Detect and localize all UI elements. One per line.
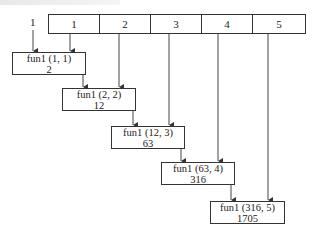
call-box-4: fun1 (63, 4) 316: [161, 162, 235, 185]
array-cell-3: 3: [151, 15, 202, 33]
call-box-5: fun1 (316, 5) 1705: [210, 201, 285, 224]
initial-value-label: 1: [30, 16, 36, 28]
array-cell-4: 4: [202, 15, 253, 33]
array-cell-2: 2: [100, 15, 151, 33]
call-box-3: fun1 (12, 3) 63: [111, 126, 185, 149]
call-result: 316: [162, 175, 234, 185]
call-label: fun1 (63, 4): [162, 164, 234, 174]
call-box-1: fun1 (1, 1) 2: [12, 52, 86, 75]
call-result: 12: [63, 101, 135, 111]
call-label: fun1 (1, 1): [13, 54, 85, 64]
array-header: 1 2 3 4 5: [48, 14, 306, 34]
call-result: 2: [13, 65, 85, 75]
call-label: fun1 (12, 3): [112, 128, 184, 138]
call-label: fun1 (316, 5): [211, 203, 284, 213]
call-label: fun1 (2, 2): [63, 90, 135, 100]
array-cell-1: 1: [49, 15, 100, 33]
call-result: 63: [112, 139, 184, 149]
array-cell-5: 5: [253, 15, 305, 33]
call-result: 1705: [211, 214, 284, 224]
call-box-2: fun1 (2, 2) 12: [62, 88, 136, 111]
